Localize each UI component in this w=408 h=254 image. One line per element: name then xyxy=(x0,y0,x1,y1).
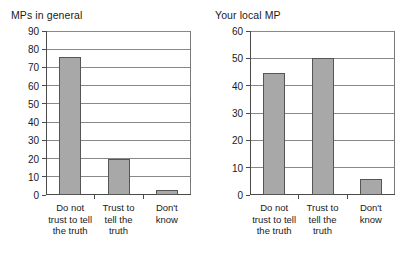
x-axis-tick xyxy=(143,195,144,199)
y-axis-label: 10 xyxy=(28,171,39,182)
figure-two-bar-charts: MPs in general 0102030405060708090Do not… xyxy=(0,0,408,254)
y-axis-line xyxy=(190,31,191,195)
y-axis-label: 40 xyxy=(232,80,243,91)
gridline xyxy=(46,49,191,50)
y-axis-line xyxy=(394,31,395,195)
y-axis-label: 0 xyxy=(237,190,243,201)
chart-panel-mps-in-general: MPs in general 0102030405060708090Do not… xyxy=(0,0,204,254)
y-axis-label: 70 xyxy=(28,62,39,73)
x-axis-category-label: Don't know xyxy=(342,202,400,225)
x-axis-tick xyxy=(347,195,348,199)
x-axis-tick xyxy=(298,195,299,199)
y-axis-label: 60 xyxy=(232,26,243,37)
y-axis-label: 50 xyxy=(28,98,39,109)
bar xyxy=(108,159,130,195)
y-axis-label: 50 xyxy=(232,53,243,64)
bar xyxy=(312,58,334,195)
y-axis-line xyxy=(46,31,47,195)
plot-area-left: 0102030405060708090Do not trust to tell … xyxy=(46,31,191,195)
chart-title-left: MPs in general xyxy=(11,9,82,21)
x-axis-tick xyxy=(94,195,95,199)
bar xyxy=(263,73,285,195)
y-axis-line xyxy=(250,31,251,195)
bar xyxy=(59,57,81,195)
chart-title-right: Your local MP xyxy=(215,9,281,21)
y-axis-label: 80 xyxy=(28,44,39,55)
bar xyxy=(156,190,178,195)
y-axis-label: 30 xyxy=(232,108,243,119)
y-axis-label: 20 xyxy=(28,153,39,164)
y-axis-label: 20 xyxy=(232,135,243,146)
gridline xyxy=(46,31,191,32)
x-axis-category-label: Don't know xyxy=(138,202,196,225)
y-axis-label: 30 xyxy=(28,135,39,146)
y-axis-label: 90 xyxy=(28,26,39,37)
plot-area-right: 0102030405060Do not trust to tell the tr… xyxy=(250,31,395,195)
y-axis-label: 40 xyxy=(28,117,39,128)
y-axis-label: 60 xyxy=(28,80,39,91)
y-axis-label: 10 xyxy=(232,162,243,173)
bar xyxy=(360,179,382,195)
chart-panel-your-local-mp: Your local MP 0102030405060Do not trust … xyxy=(204,0,408,254)
gridline xyxy=(250,31,395,32)
y-axis-label: 0 xyxy=(33,190,39,201)
